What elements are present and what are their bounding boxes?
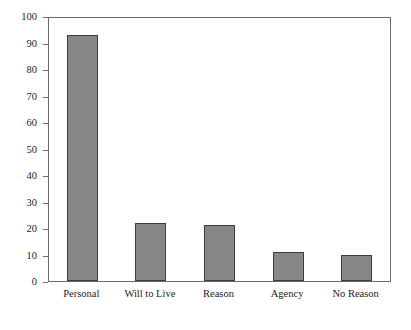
y-axis-tick-label: 0 xyxy=(32,274,37,290)
y-axis-tick-label: 60 xyxy=(27,115,38,131)
y-axis-tick-label: 70 xyxy=(27,89,38,105)
x-axis-category-label: No Reason xyxy=(333,286,379,302)
y-axis-tick-mark xyxy=(43,282,48,283)
y-axis-tick-label: 100 xyxy=(21,9,37,25)
y-axis-tick-label: 80 xyxy=(27,62,38,78)
y-axis: 0102030405060708090100 xyxy=(0,0,48,330)
y-axis-tick-label: 20 xyxy=(27,221,38,237)
bar xyxy=(341,255,372,282)
x-axis-category-label: Will to Live xyxy=(124,286,175,302)
bar xyxy=(273,252,304,281)
y-axis-tick-label: 30 xyxy=(27,195,38,211)
bar xyxy=(204,225,235,281)
y-axis-tick-label: 50 xyxy=(27,142,38,158)
x-axis-category-label: Personal xyxy=(63,286,99,302)
y-axis-tick-label: 40 xyxy=(27,168,38,184)
x-axis: PersonalWill to LiveReasonAgencyNo Reaso… xyxy=(48,284,391,308)
x-axis-category-label: Agency xyxy=(271,286,304,302)
bar-chart: 0102030405060708090100 PersonalWill to L… xyxy=(0,0,411,330)
plot-area xyxy=(48,17,391,282)
x-axis-category-label: Reason xyxy=(203,286,234,302)
y-axis-tick-label: 10 xyxy=(27,248,38,264)
y-axis-tick-label: 90 xyxy=(27,36,38,52)
bar xyxy=(67,35,98,281)
bar xyxy=(135,223,166,281)
